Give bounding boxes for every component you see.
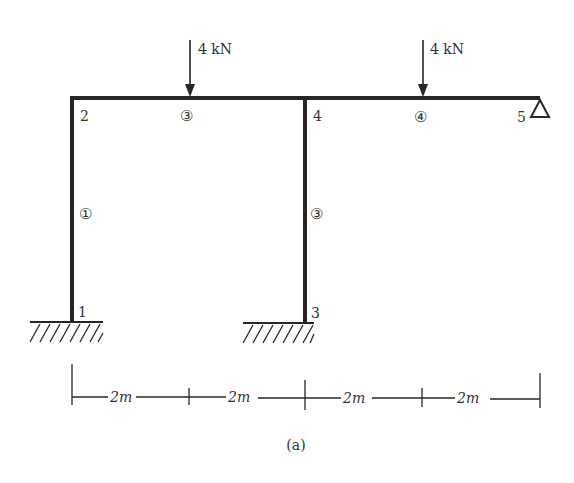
element-label: ③: [310, 205, 323, 223]
element-label: ③: [180, 107, 193, 125]
load-label: 4 kN: [198, 41, 232, 57]
dimension-label: 2m: [342, 390, 365, 406]
frame-diagram: 4 kN 4 kN 2 4 5 1 3 ③ ④ ① ③ 2m 2m 2m 2m …: [0, 0, 574, 483]
node-label: 2: [80, 108, 89, 124]
element-label: ①: [79, 205, 92, 223]
figure-caption: (a): [286, 437, 305, 453]
node-label: 3: [311, 305, 320, 321]
element-label: ④: [414, 108, 427, 126]
node-label: 1: [78, 304, 87, 320]
dimension-label: 2m: [109, 389, 132, 405]
load-label: 4 kN: [430, 41, 464, 57]
load-arrow-icon: [418, 40, 428, 97]
load-arrow-icon: [185, 40, 195, 97]
fixed-support-icon: [30, 322, 103, 342]
node-label: 5: [517, 109, 526, 125]
dimension-label: 2m: [227, 389, 250, 405]
pin-support-icon: [531, 100, 549, 117]
node-label: 4: [313, 108, 322, 124]
dimension-label: 2m: [456, 390, 479, 406]
fixed-support-icon: [243, 323, 314, 343]
